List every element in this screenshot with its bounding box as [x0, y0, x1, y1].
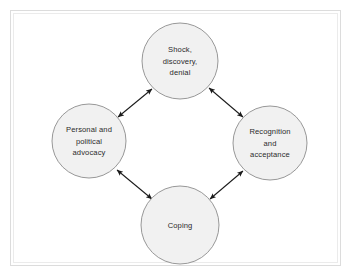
connector-shock-recognition — [209, 88, 243, 117]
node-recognition-label-line-2: and — [264, 139, 277, 148]
node-shock[interactable]: Shock, discovery, denial — [142, 23, 218, 99]
node-advocacy-label-line-3: advocacy — [73, 148, 106, 157]
connector-advocacy-shock — [118, 89, 152, 117]
cycle-diagram-figure: Shock, discovery, denial Recognition and… — [0, 0, 352, 278]
node-shock-label-line-3: denial — [170, 68, 191, 77]
connector-group — [117, 88, 243, 199]
diagram-canvas: Shock, discovery, denial Recognition and… — [0, 0, 352, 278]
node-advocacy-label-line-1: Personal and — [66, 125, 112, 134]
node-recognition-label-line-3: acceptance — [250, 150, 290, 159]
node-coping-label-line-1: Coping — [168, 221, 193, 230]
connector-coping-advocacy — [117, 170, 152, 199]
node-advocacy[interactable]: Personal and political advocacy — [52, 104, 126, 178]
node-coping[interactable]: Coping — [141, 186, 219, 264]
node-recognition[interactable]: Recognition and acceptance — [233, 106, 307, 180]
node-recognition-label-line-1: Recognition — [249, 127, 290, 136]
node-shock-label-line-2: discovery, — [163, 57, 198, 66]
node-advocacy-label-line-2: political — [76, 137, 102, 146]
connector-recognition-coping — [210, 171, 243, 199]
node-shock-label-line-1: Shock, — [168, 45, 192, 54]
